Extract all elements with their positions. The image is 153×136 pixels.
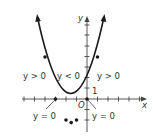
parabola-curve (38, 21, 103, 94)
x-axis-label: x (141, 100, 148, 110)
parabola-diagram: y x O 1 y > 0 y < 0 y > 0 y = 0 y = 0 (0, 0, 153, 136)
region-label-right-positive: y > 0 (97, 71, 120, 81)
curve-right-arrow-icon (101, 14, 107, 22)
unit-label: 1 (92, 86, 97, 96)
curve-left-arrow-icon (35, 14, 41, 22)
region-label-left-positive: y > 0 (23, 71, 46, 81)
region-label-middle-negative: y < 0 (57, 71, 80, 81)
y-axis-label: y (77, 13, 84, 23)
origin-label: O (78, 100, 85, 110)
root-right-pointer (88, 100, 96, 109)
root-label-left: y = 0 (33, 111, 56, 121)
root-left-pointer (46, 100, 55, 109)
y-axis-arrow-icon (85, 16, 90, 22)
root-label-right: y = 0 (92, 111, 115, 121)
